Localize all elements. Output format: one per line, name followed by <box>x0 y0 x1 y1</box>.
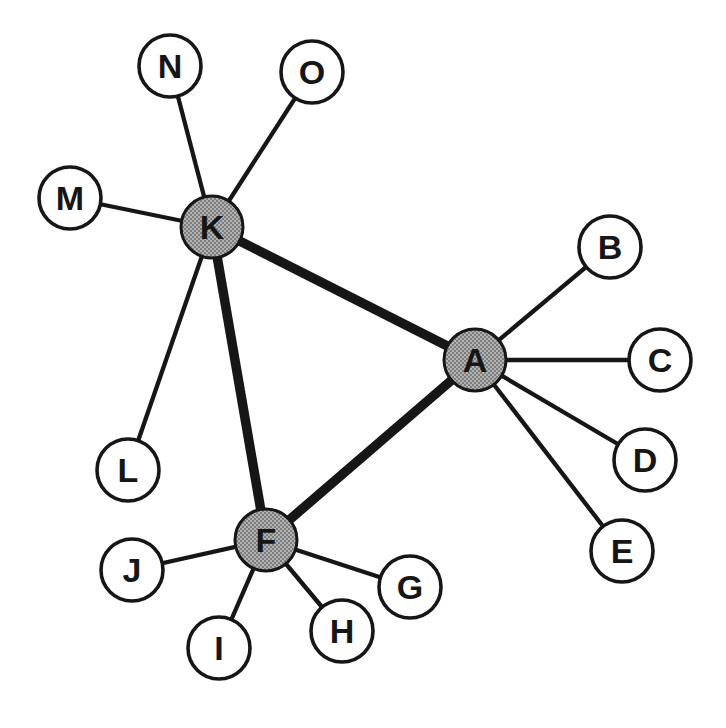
node-F: F <box>235 509 297 571</box>
edge-K-F <box>212 227 266 540</box>
node-label-E: E <box>611 532 634 570</box>
nodes-layer: KAFNOMLBCDEJIHG <box>39 35 691 679</box>
edge-A-E <box>475 360 622 551</box>
node-J: J <box>101 539 163 601</box>
edge-F-A <box>266 360 475 540</box>
network-diagram: KAFNOMLBCDEJIHG <box>0 0 726 728</box>
node-label-M: M <box>56 179 84 217</box>
node-label-N: N <box>158 47 183 85</box>
node-C: C <box>629 329 691 391</box>
node-label-D: D <box>633 441 658 479</box>
node-A: A <box>444 329 506 391</box>
node-I: I <box>188 617 250 679</box>
node-K: K <box>181 196 243 258</box>
node-B: B <box>579 216 641 278</box>
node-G: G <box>379 556 441 618</box>
node-E: E <box>591 520 653 582</box>
edge-K-A <box>212 227 475 360</box>
node-label-H: H <box>330 612 355 650</box>
node-L: L <box>97 439 159 501</box>
diagram-canvas: KAFNOMLBCDEJIHG <box>0 0 726 728</box>
node-label-K: K <box>200 208 225 246</box>
node-label-G: G <box>397 568 423 606</box>
node-M: M <box>39 167 101 229</box>
node-label-O: O <box>299 53 325 91</box>
node-H: H <box>311 600 373 662</box>
node-O: O <box>281 41 343 103</box>
node-label-F: F <box>256 521 277 559</box>
node-label-B: B <box>598 228 623 266</box>
edge-K-L <box>128 227 212 470</box>
node-label-L: L <box>118 451 139 489</box>
node-label-C: C <box>648 341 673 379</box>
node-N: N <box>139 35 201 97</box>
node-label-J: J <box>123 551 142 589</box>
node-D: D <box>614 429 676 491</box>
node-label-A: A <box>463 341 488 379</box>
node-label-I: I <box>214 629 223 667</box>
